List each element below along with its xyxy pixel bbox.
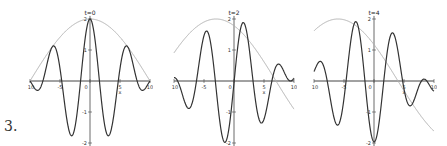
plot-t0-svg: -10-50510x21-1-2t=0	[28, 0, 153, 146]
plot-t4-svg: -10-50510x21-1-2t=4	[312, 0, 437, 146]
x-tick-label: 10	[291, 84, 297, 90]
plot-title: t=0	[84, 9, 95, 16]
y-tick-label: -1	[82, 109, 87, 115]
x-axis-label: x	[263, 89, 266, 95]
y-tick-label: 2	[228, 16, 231, 22]
plot-t2: -10-50510x21-1-2t=2	[172, 0, 297, 146]
y-tick-label: 1	[368, 47, 371, 53]
x-tick-label: -10	[172, 84, 178, 90]
plot-t2-svg: -10-50510x21-1-2t=2	[172, 0, 297, 146]
y-tick-label: 1	[228, 47, 231, 53]
y-tick-label: -2	[366, 140, 371, 146]
x-axis-label: x	[119, 89, 122, 95]
x-tick-label: 0	[368, 84, 371, 90]
figure-label: 3.	[4, 118, 17, 134]
x-tick-label: -5	[202, 84, 207, 90]
plot-t4: -10-50510x21-1-2t=4	[312, 0, 437, 146]
x-tick-label: -10	[312, 84, 318, 90]
plot-title: t=4	[368, 9, 379, 16]
x-tick-label: 0	[228, 84, 231, 90]
plot-t0: -10-50510x21-1-2t=0	[28, 0, 153, 146]
y-tick-label: 2	[368, 16, 371, 22]
x-tick-label: 0	[84, 84, 87, 90]
y-tick-label: -2	[82, 140, 87, 146]
plot-title: t=2	[228, 9, 239, 16]
